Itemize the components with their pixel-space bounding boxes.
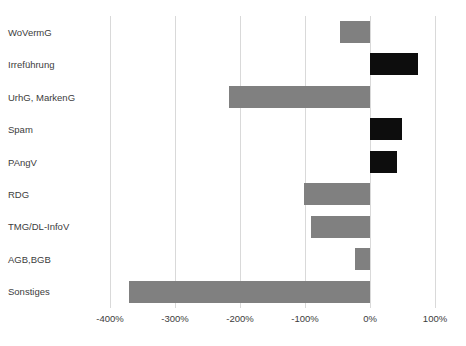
x-axis-tick-2: -200% — [210, 313, 270, 324]
bar-row — [110, 16, 435, 48]
x-axis-tick-3: -100% — [275, 313, 335, 324]
y-axis-label-8: Sonstiges — [8, 286, 106, 297]
y-axis-label-0: WoVermG — [8, 27, 106, 38]
bar-urhg-markeng — [229, 86, 370, 108]
y-axis-label-6: TMG/DL-InfoV — [8, 221, 106, 232]
bar-agb-bgb — [355, 248, 370, 270]
bar-pangv — [370, 151, 397, 173]
plot-area — [110, 16, 435, 308]
x-axis-tick-0: -400% — [80, 313, 140, 324]
bar-wovermg — [340, 21, 370, 43]
y-axis-label-5: RDG — [8, 189, 106, 200]
bar-sonstiges — [129, 281, 370, 303]
x-axis-tick-1: -300% — [145, 313, 205, 324]
x-axis-tick-4: 0% — [340, 313, 400, 324]
bar-tmg-dl-infov — [311, 216, 370, 238]
y-axis-label-4: PAngV — [8, 157, 106, 168]
bar-row — [110, 211, 435, 243]
x-axis-tick-5: 100% — [405, 313, 465, 324]
bar-row — [110, 178, 435, 210]
x-axis-tick-labels: -400% -300% -200% -100% 0% 100% — [0, 313, 466, 333]
bar-row — [110, 81, 435, 113]
bar-chart: WoVermG Irreführung UrhG, MarkenG Spam P… — [0, 0, 466, 346]
bar-row — [110, 146, 435, 178]
y-axis-label-7: AGB,BGB — [8, 254, 106, 265]
bar-row — [110, 276, 435, 308]
bar-spam — [370, 118, 402, 140]
y-axis-label-3: Spam — [8, 124, 106, 135]
y-axis-label-1: Irreführung — [8, 59, 106, 70]
bar-irref-hrung — [370, 53, 418, 75]
bar-row — [110, 113, 435, 145]
gridline-5 — [435, 16, 436, 308]
bar-rdg — [304, 183, 370, 205]
bar-row — [110, 48, 435, 80]
bar-row — [110, 243, 435, 275]
y-axis-label-2: UrhG, MarkenG — [8, 92, 106, 103]
